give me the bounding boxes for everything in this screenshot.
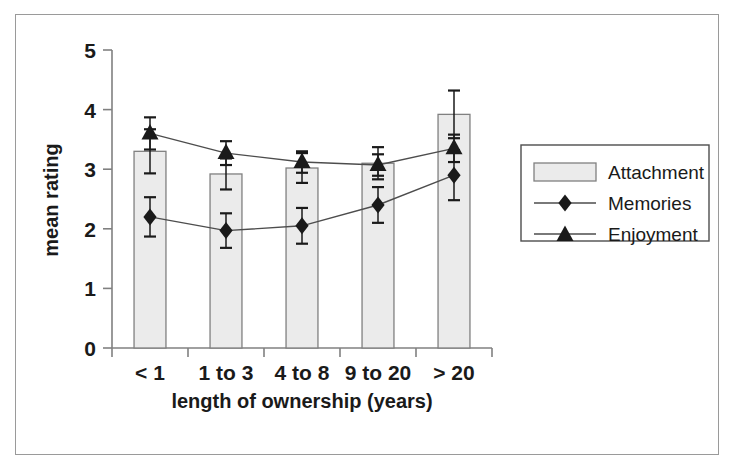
y-axis-tick-label: 5: [84, 39, 96, 62]
y-axis-tick-labels: 012345: [84, 39, 96, 360]
triangle-marker-icon: [294, 153, 311, 168]
bar: [134, 151, 166, 348]
bar-swatch-icon: [534, 163, 596, 181]
legend-label: Memories: [608, 193, 691, 214]
x-axis-tick-label: > 20: [433, 361, 474, 384]
x-axis-tick-label: 1 to 3: [199, 361, 254, 384]
x-axis-tick-labels: < 11 to 34 to 89 to 20> 20: [135, 361, 475, 384]
y-axis-ticks: [103, 50, 112, 348]
y-axis-tick-label: 3: [84, 158, 96, 181]
bar: [286, 168, 318, 348]
chart-legend: AttachmentMemoriesEnjoyment: [521, 145, 709, 245]
x-axis-ticks: [112, 348, 492, 357]
x-axis: < 11 to 34 to 89 to 20> 20 length of own…: [112, 348, 492, 412]
x-axis-tick-label: 4 to 8: [275, 361, 330, 384]
chart-plot-area: 012345 mean rating < 11 to 34 to 89 to 2…: [0, 0, 734, 472]
legend-label: Attachment: [608, 162, 705, 183]
y-axis-tick-label: 4: [84, 99, 96, 122]
y-axis-title: mean rating: [40, 143, 62, 256]
x-axis-title: length of ownership (years): [171, 390, 432, 412]
y-axis: 012345 mean rating: [40, 39, 112, 360]
triangle-marker-icon: [142, 124, 159, 139]
chart-figure: 012345 mean rating < 11 to 34 to 89 to 2…: [0, 0, 734, 472]
y-axis-tick-label: 0: [84, 337, 96, 360]
legend-label: Enjoyment: [608, 224, 698, 245]
y-axis-tick-label: 2: [84, 218, 96, 241]
bar: [210, 174, 242, 348]
x-axis-tick-label: 9 to 20: [345, 361, 412, 384]
x-axis-tick-label: < 1: [135, 361, 165, 384]
y-axis-tick-label: 1: [84, 277, 96, 300]
